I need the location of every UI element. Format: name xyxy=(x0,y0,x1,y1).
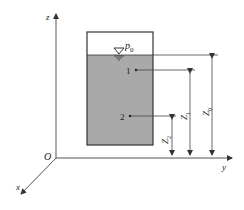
hydrostatics-diagram: z y x O p0 1 2 Z0 Z1 Z2 xyxy=(0,0,244,210)
z1-label: Z1 xyxy=(179,112,191,120)
point-2-label: 2 xyxy=(120,112,125,122)
tank xyxy=(87,32,153,145)
dimension-z1: Z1 xyxy=(179,73,191,155)
z0-label: Z0 xyxy=(201,108,213,116)
dimension-z0: Z0 xyxy=(201,58,213,155)
dimension-z2: Z2 xyxy=(160,119,172,155)
water-body xyxy=(87,55,153,145)
z-axis-label: z xyxy=(45,12,50,22)
origin-label: O xyxy=(44,151,51,162)
x-axis xyxy=(21,158,56,194)
surface-pressure-label: p0 xyxy=(124,40,134,54)
x-axis-label: x xyxy=(15,182,20,192)
z2-label: Z2 xyxy=(160,136,172,144)
y-axis-label: y xyxy=(221,162,226,172)
point-1-label: 1 xyxy=(126,66,131,76)
